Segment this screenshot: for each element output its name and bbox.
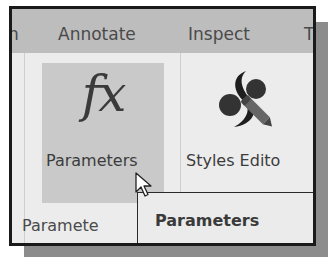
window-shadow-bottom [24,245,328,257]
tab-partial-right[interactable]: T [304,24,314,44]
styles-editor-button-label: Styles Edito [186,151,280,170]
tooltip-title: Parameters [155,211,259,230]
ribbon-group-label: Paramete [22,216,99,235]
styles-editor-icon [212,65,282,135]
tab-partial-left[interactable]: n [9,24,19,44]
parameters-button-label: Parameters [46,151,138,170]
tab-inspect[interactable]: Inspect [188,24,250,44]
group-separator-left [24,53,25,243]
ribbon-tab-strip: n Annotate Inspect T [12,9,313,53]
tooltip: Parameters [137,192,316,246]
ribbon-window: n Annotate Inspect T fx Parameters Style… [9,6,316,246]
window-shadow-right [315,22,328,257]
styles-editor-button[interactable]: Styles Edito [184,63,316,203]
fx-icon: fx [42,65,164,123]
mouse-cursor-icon [135,172,153,198]
tab-annotate[interactable]: Annotate [58,24,136,44]
